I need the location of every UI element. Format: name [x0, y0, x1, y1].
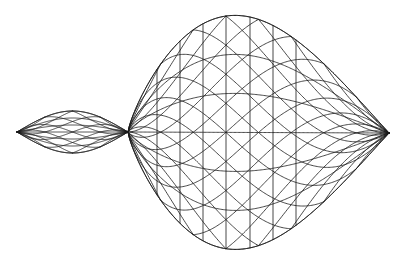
right-spine [128, 54, 389, 133]
right-lobe-mesh [128, 15, 389, 249]
right-outline-bottom [128, 132, 389, 249]
right-curve [128, 80, 356, 167]
right-curve [193, 30, 389, 142]
right-curve [161, 54, 389, 152]
right-curve [128, 132, 226, 249]
right-curve [128, 98, 356, 186]
right-outline-top [128, 15, 389, 133]
wireframe-mesh-diagram [0, 0, 406, 257]
right-curve [128, 77, 389, 167]
right-spine [128, 132, 389, 210]
right-spine [128, 132, 389, 133]
right-spine [128, 15, 389, 133]
right-curve [128, 132, 193, 235]
right-spine [128, 93, 389, 133]
right-spine [128, 132, 389, 249]
left-lobe-mesh [17, 111, 128, 153]
right-curve [128, 16, 226, 132]
